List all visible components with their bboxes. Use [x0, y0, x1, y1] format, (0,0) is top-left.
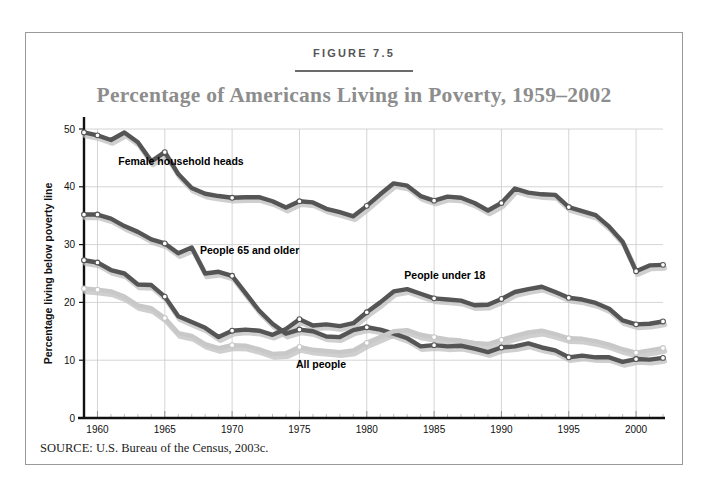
data-point-marker: [297, 327, 302, 332]
data-point-marker: [82, 130, 87, 135]
ytick-label: 50: [64, 124, 76, 135]
data-point-marker: [432, 335, 437, 340]
data-point-marker: [432, 296, 437, 301]
data-point-marker: [95, 133, 100, 138]
data-point-marker: [82, 286, 87, 291]
data-point-marker: [297, 199, 302, 204]
data-point-marker: [95, 260, 100, 265]
data-point-marker: [661, 262, 666, 267]
y-axis-title: Percentage living below poverty line: [42, 183, 54, 365]
data-point-marker: [230, 328, 235, 333]
data-point-marker: [634, 350, 639, 355]
data-point-marker: [499, 345, 504, 350]
data-point-marker: [162, 316, 167, 321]
data-point-marker: [162, 241, 167, 246]
xtick-label: 1960: [86, 424, 109, 435]
data-point-marker: [499, 297, 504, 302]
data-point-marker: [95, 287, 100, 292]
series-label-people-under-18: People under 18: [404, 269, 485, 281]
data-point-marker: [661, 355, 666, 360]
xtick-label: 1985: [423, 424, 446, 435]
ytick-label: 20: [64, 297, 76, 308]
series-label-people-65-and-older: People 65 and older: [200, 244, 299, 256]
xtick-label: 1990: [490, 424, 513, 435]
data-point-marker: [162, 294, 167, 299]
data-point-marker: [364, 325, 369, 330]
figure-frame: FIGURE 7.5 Percentage of Americans Livin…: [25, 32, 683, 465]
xtick-label: 1975: [288, 424, 311, 435]
xtick-label: 1970: [221, 424, 244, 435]
data-point-marker: [297, 317, 302, 322]
data-point-marker: [634, 357, 639, 362]
data-point-marker: [297, 345, 302, 350]
data-point-marker: [82, 258, 87, 263]
poverty-line-chart: 0102030405019601965197019751980198519901…: [26, 33, 684, 466]
data-point-marker: [364, 310, 369, 315]
xtick-label: 1980: [356, 424, 379, 435]
chart-plot-area: 0102030405019601965197019751980198519901…: [26, 33, 684, 466]
data-point-marker: [432, 198, 437, 203]
xtick-label: 2000: [625, 424, 648, 435]
data-point-marker: [661, 319, 666, 324]
ytick-label: 30: [64, 239, 76, 250]
data-point-marker: [566, 355, 571, 360]
data-point-marker: [230, 273, 235, 278]
data-point-marker: [364, 203, 369, 208]
data-point-marker: [499, 338, 504, 343]
data-point-marker: [162, 150, 167, 155]
ytick-label: 0: [69, 413, 75, 424]
ytick-label: 40: [64, 181, 76, 192]
data-point-marker: [566, 336, 571, 341]
series-label-all-people: All people: [296, 358, 346, 370]
data-point-marker: [566, 295, 571, 300]
data-point-marker: [566, 205, 571, 210]
source-note: SOURCE: U.S. Bureau of the Census, 2003c…: [40, 441, 268, 456]
data-point-marker: [634, 269, 639, 274]
xtick-label: 1995: [558, 424, 581, 435]
data-point-marker: [432, 343, 437, 348]
data-point-marker: [634, 322, 639, 327]
data-point-marker: [230, 195, 235, 200]
xtick-label: 1965: [154, 424, 177, 435]
series-label-female-household-heads: Female household heads: [118, 155, 244, 167]
data-point-marker: [364, 340, 369, 345]
data-point-marker: [230, 343, 235, 348]
data-point-marker: [95, 212, 100, 217]
data-point-marker: [82, 212, 87, 217]
data-point-marker: [499, 201, 504, 206]
ytick-label: 10: [64, 355, 76, 366]
data-point-marker: [661, 346, 666, 351]
